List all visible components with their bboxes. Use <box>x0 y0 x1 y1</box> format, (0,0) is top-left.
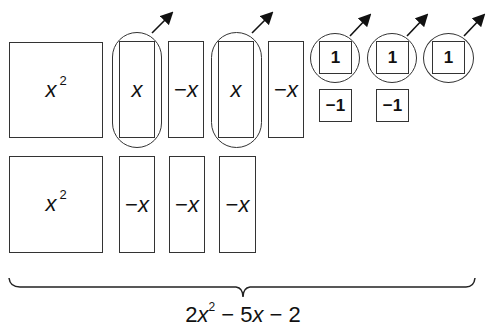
removal-arrow-icons <box>152 15 482 36</box>
x-squared-tile: x2 <box>9 156 103 253</box>
polynomial-expression: 2x2 − 5x − 2 <box>0 302 486 328</box>
x-squared-tile: x2 <box>9 42 103 138</box>
neg-x-tile: −x <box>119 156 155 253</box>
neg-one-tile: −1 <box>376 89 409 122</box>
one-tile: 1 <box>376 41 409 74</box>
x-tile: x <box>119 41 155 138</box>
neg-x-tile: −x <box>219 156 256 253</box>
one-tile: 1 <box>432 41 465 74</box>
neg-x-tile: −x <box>168 41 204 138</box>
neg-x-tile: −x <box>169 156 205 253</box>
curly-brace-icon <box>9 278 475 297</box>
one-tile: 1 <box>319 41 352 74</box>
x-tile: x <box>218 41 254 138</box>
neg-one-tile: −1 <box>319 89 352 122</box>
neg-x-tile: −x <box>268 41 304 138</box>
